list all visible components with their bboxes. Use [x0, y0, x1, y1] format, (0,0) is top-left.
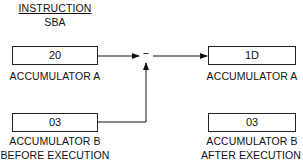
flow-arrows: [0, 0, 303, 162]
arrow-b-to-operator: [98, 63, 146, 122]
